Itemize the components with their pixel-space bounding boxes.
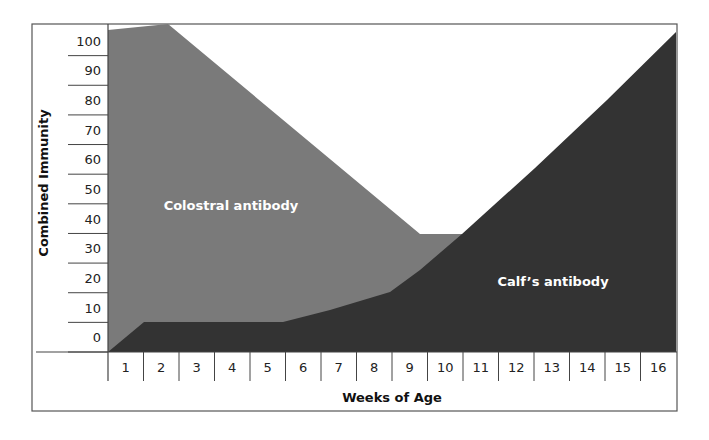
y-tick-label: 30 [84, 241, 101, 256]
x-tick-label: 5 [264, 360, 272, 375]
x-tick-label: 3 [193, 360, 201, 375]
y-tick-label: 60 [84, 152, 101, 167]
y-tick-label: 40 [84, 212, 101, 227]
x-axis-title: Weeks of Age [342, 390, 442, 405]
y-tick-label: 50 [84, 182, 101, 197]
x-tick-label: 9 [406, 360, 414, 375]
x-tick-label: 11 [472, 360, 489, 375]
x-tick-label: 12 [508, 360, 525, 375]
y-axis-ticks: 0102030405060708090100 [68, 34, 108, 352]
calf-antibody-label: Calf’s antibody [497, 274, 609, 289]
x-tick-label: 13 [543, 360, 560, 375]
colostral-antibody-label: Colostral antibody [164, 198, 299, 213]
x-tick-label: 8 [370, 360, 378, 375]
y-axis-title: Combined Immunity [36, 109, 51, 257]
y-tick-label: 0 [93, 330, 101, 345]
x-tick-label: 6 [299, 360, 307, 375]
x-tick-label: 10 [437, 360, 454, 375]
x-tick-label: 7 [335, 360, 343, 375]
x-tick-label: 4 [228, 360, 236, 375]
y-tick-label: 100 [76, 34, 101, 49]
y-tick-label: 80 [84, 93, 101, 108]
y-tick-label: 10 [84, 301, 101, 316]
x-tick-label: 16 [650, 360, 667, 375]
x-tick-label: 14 [579, 360, 596, 375]
x-tick-label: 1 [122, 360, 130, 375]
immunity-area-chart: 0102030405060708090100 12345678910111213… [0, 0, 709, 440]
x-axis-ticks: 12345678910111213141516 [122, 352, 667, 381]
x-tick-label: 2 [157, 360, 165, 375]
x-tick-label: 15 [614, 360, 631, 375]
y-tick-label: 70 [84, 123, 101, 138]
y-tick-label: 90 [84, 63, 101, 78]
y-tick-label: 20 [84, 271, 101, 286]
